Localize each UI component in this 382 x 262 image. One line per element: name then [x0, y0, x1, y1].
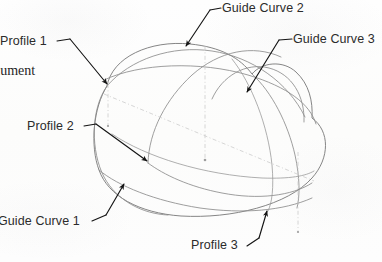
leader-guide-curve-3 [279, 39, 292, 40]
centerline-node-mid [204, 159, 207, 162]
label-profile-2: Profile 2 [27, 120, 74, 133]
leader-guide-curve-2 [210, 8, 221, 10]
centerline-node-left [107, 125, 109, 127]
profile-2-section-lower [148, 163, 312, 196]
leader-guide-curve-1 [92, 215, 106, 221]
leader-profile-1 [57, 39, 70, 41]
leader-guide-curve-1-arrow [106, 184, 124, 215]
centerline-node-right [297, 231, 299, 233]
label-profile-1: Profile 1 [0, 35, 47, 48]
leader-guide-curve-2-arrow [186, 10, 210, 46]
leader-profile-1-arrow [70, 39, 107, 84]
loft-body [94, 43, 326, 216]
guide-curve-2-path [107, 50, 305, 117]
label-guide-curve-1: Guide Curve 1 [0, 215, 80, 228]
leader-profile-3 [247, 238, 259, 246]
diagram-canvas: Profile 1 cument Profile 2 Guide Curve 1… [0, 0, 382, 262]
label-guide-curve-3: Guide Curve 3 [293, 33, 375, 46]
leader-profile-3-arrow [259, 211, 267, 238]
surface-isoline-belly [112, 134, 314, 178]
guide-curve-2-secondary [104, 66, 316, 124]
centerline-nodes [107, 125, 299, 233]
label-profile-3: Profile 3 [191, 239, 238, 252]
label-guide-curve-2: Guide Curve 2 [222, 2, 304, 15]
centerline-axis-diagonal [104, 94, 314, 181]
leader-profile-2-arrow [96, 124, 147, 161]
label-clipped-word: cument [0, 64, 35, 78]
guide-curve-1-path [99, 170, 312, 211]
profile-1-section [94, 86, 168, 215]
